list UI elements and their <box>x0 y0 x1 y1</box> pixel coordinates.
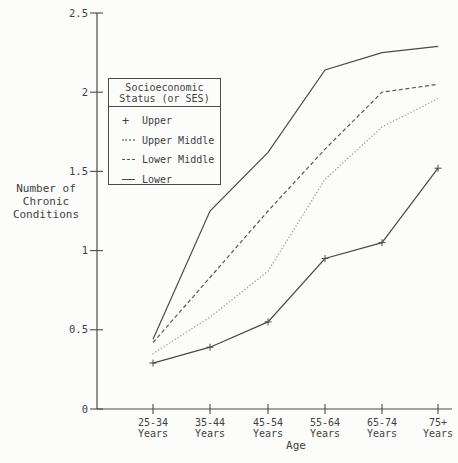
x-tick-label: 65-74 <box>367 417 397 428</box>
series-line-upper <box>153 168 438 363</box>
legend-entry-upper-middle: Upper Middle <box>122 131 220 151</box>
x-tick-label: 45-54 <box>253 417 283 428</box>
dashed-line-icon <box>122 159 135 160</box>
legend-entries: +UpperUpper MiddleLower MiddleLower <box>109 107 220 189</box>
x-tick-sublabel: Years <box>138 428 168 439</box>
legend-title-line1: Socioeconomic <box>109 82 220 93</box>
x-tick-sublabel: Years <box>423 428 453 439</box>
legend-entry-lower-middle: Lower Middle <box>122 150 220 170</box>
legend-box: Socioeconomic Status (or SES) +UpperUppe… <box>108 78 221 185</box>
y-tick-label: 1.5 <box>69 165 88 177</box>
x-axis-title: Age <box>134 439 458 452</box>
legend-entry-upper: +Upper <box>122 111 220 131</box>
y-tick-label: 0.5 <box>69 323 88 335</box>
solid-line-icon <box>122 179 135 180</box>
y-tick-label: 2.5 <box>69 7 88 19</box>
x-tick-label: 25-34 <box>138 417 168 428</box>
legend-entry-label: Upper <box>142 115 172 126</box>
x-tick-sublabel: Years <box>195 428 225 439</box>
x-tick-sublabel: Years <box>253 428 283 439</box>
plus-marker-icon: + <box>122 116 135 126</box>
y-tick-label: 2 <box>82 86 88 98</box>
legend-entry-label: Lower <box>142 174 172 185</box>
x-tick-sublabel: Years <box>310 428 340 439</box>
legend-entry-label: Lower Middle <box>142 154 214 165</box>
y-axis-title: Number of Chronic Conditions <box>0 182 92 221</box>
y-tick-label: 0 <box>82 403 88 415</box>
legend-title: Socioeconomic Status (or SES) <box>109 79 220 107</box>
chronic-conditions-chart: 00.511.522.525-34Years35-44Years45-54Yea… <box>0 0 458 463</box>
dotted-line-icon <box>122 139 135 141</box>
chart-svg: 00.511.522.525-34Years35-44Years45-54Yea… <box>0 0 458 463</box>
legend-title-line2: Status (or SES) <box>109 93 220 104</box>
y-tick-label: 1 <box>82 244 88 256</box>
x-tick-label: 75+ <box>429 417 447 428</box>
legend-entry-lower: Lower <box>122 170 220 190</box>
x-tick-label: 55-64 <box>310 417 340 428</box>
legend-entry-label: Upper Middle <box>142 135 214 146</box>
x-tick-sublabel: Years <box>367 428 397 439</box>
x-tick-label: 35-44 <box>195 417 225 428</box>
